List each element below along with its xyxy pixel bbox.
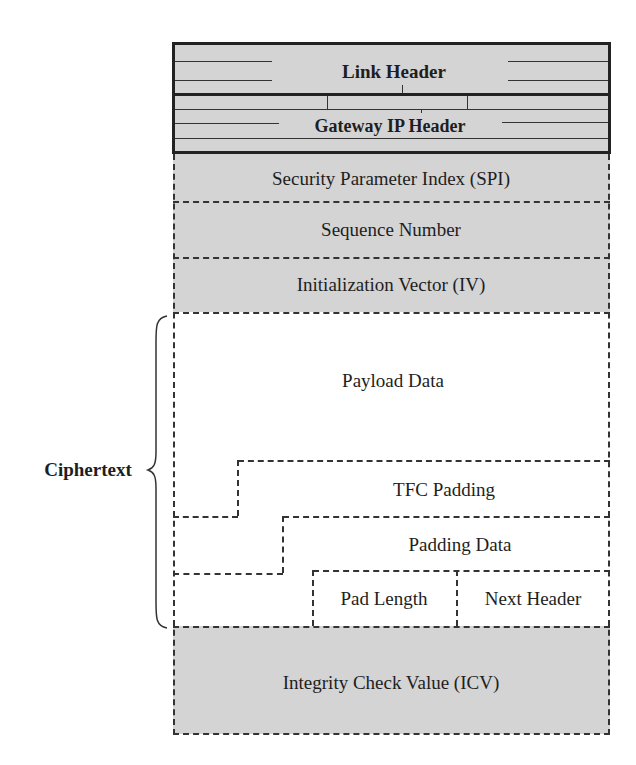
gateway-header-tick bbox=[421, 109, 422, 113]
padding-data-label: Padding Data bbox=[409, 534, 512, 556]
pad-length-left bbox=[312, 570, 314, 626]
link-header-line bbox=[508, 80, 608, 81]
link-header-label: Link Header bbox=[342, 61, 446, 83]
gateway-header-line bbox=[174, 123, 279, 124]
gateway-header-tick bbox=[327, 94, 328, 109]
padding-data-top bbox=[283, 516, 610, 518]
header-frame-mid bbox=[172, 93, 611, 96]
field-divider bbox=[173, 626, 610, 628]
link-header-line bbox=[174, 80, 272, 81]
iv-label: Initialization Vector (IV) bbox=[297, 274, 486, 296]
next-header-label: Next Header bbox=[485, 588, 582, 610]
gateway-ip-header-label: Gateway IP Header bbox=[309, 116, 472, 137]
padding-data-bottom-left bbox=[173, 573, 283, 575]
esp-left-border bbox=[173, 154, 175, 735]
gateway-header-line bbox=[502, 122, 608, 123]
spi-label: Security Parameter Index (SPI) bbox=[272, 168, 510, 190]
sequence-number-label: Sequence Number bbox=[321, 219, 461, 241]
field-divider bbox=[173, 257, 610, 259]
gateway-header-line bbox=[174, 138, 608, 139]
pad-length-label: Pad Length bbox=[340, 588, 427, 610]
header-frame-top bbox=[172, 42, 611, 45]
gateway-header-line bbox=[174, 109, 608, 110]
icv-bottom bbox=[173, 733, 610, 735]
header-frame-right bbox=[608, 42, 611, 154]
padding-data-step bbox=[282, 516, 284, 573]
link-header-line bbox=[508, 61, 608, 62]
esp-right-border bbox=[608, 154, 610, 735]
trailer-top bbox=[313, 570, 610, 572]
tfc-padding-label: TFC Padding bbox=[393, 479, 495, 501]
ciphertext-label: Ciphertext bbox=[44, 459, 132, 481]
tfc-padding-bottom-left bbox=[173, 516, 238, 518]
payload-data-label: Payload Data bbox=[342, 370, 444, 392]
link-header-line bbox=[174, 61, 272, 62]
header-frame-left bbox=[172, 42, 175, 154]
next-header-divider bbox=[456, 570, 458, 626]
icv-label: Integrity Check Value (ICV) bbox=[283, 672, 500, 694]
field-divider bbox=[173, 201, 610, 203]
tfc-padding-step bbox=[237, 460, 239, 516]
field-divider bbox=[173, 312, 610, 314]
tfc-padding-top bbox=[238, 460, 610, 462]
ciphertext-brace-icon bbox=[140, 312, 170, 632]
gateway-header-tick bbox=[467, 94, 468, 109]
